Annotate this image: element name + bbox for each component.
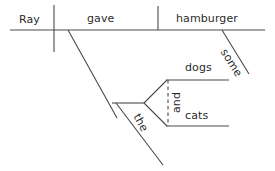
diagram-canvas	[0, 0, 275, 171]
label-conjunction: and	[171, 92, 182, 113]
label-object-cats: cats	[185, 110, 208, 121]
indirect-object-arm-line	[68, 30, 117, 118]
label-direct-object: hamburger	[176, 13, 238, 24]
label-verb: gave	[87, 13, 114, 24]
label-subject: Ray	[19, 14, 40, 25]
sentence-diagram: Ray gave hamburger some the and dogs cat…	[0, 0, 275, 171]
label-object-dogs: dogs	[185, 62, 212, 73]
fork-upper-line	[144, 80, 167, 103]
diagram-lines	[10, 5, 265, 165]
